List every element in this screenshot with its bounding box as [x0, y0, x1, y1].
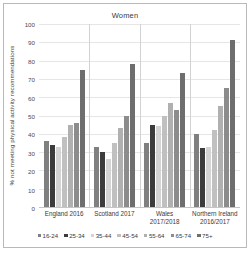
plot-area: 1009080706050403020100	[18, 24, 240, 208]
legend-label: 16-24	[43, 232, 59, 239]
bar[interactable]	[100, 152, 105, 207]
x-axis-label-line: 2017/2018	[140, 218, 190, 226]
bar[interactable]	[112, 143, 117, 207]
bar[interactable]	[68, 125, 73, 207]
y-tick-label: 60	[28, 94, 35, 101]
y-tick-label: 50	[28, 113, 35, 120]
legend-item[interactable]: 75+	[197, 232, 212, 239]
x-axis-label-line: England 2016	[39, 210, 89, 218]
bar-groups	[39, 24, 240, 207]
x-axis-labels: England 2016Scotland 2017Wales2017/2018N…	[39, 210, 240, 226]
y-axis-title: % not meeting physical activity recommen…	[6, 22, 18, 208]
legend-swatch	[117, 234, 121, 238]
x-axis-label: Scotland 2017	[89, 210, 139, 226]
legend-item[interactable]: 25-34	[64, 232, 85, 239]
bar[interactable]	[224, 88, 229, 207]
chart-card: Women % not meeting physical activity re…	[3, 3, 247, 248]
legend-label: 35-44	[96, 232, 112, 239]
bar[interactable]	[194, 134, 199, 207]
x-axis-label-line: 2016/2017	[190, 218, 240, 226]
chart-legend: 16-2425-3435-4445-5455-6465-7475+	[4, 232, 246, 239]
bar[interactable]	[162, 116, 167, 208]
legend-label: 55-64	[149, 232, 165, 239]
x-axis-label-line: Northern Ireland	[190, 210, 240, 218]
bar-group	[39, 24, 89, 207]
legend-item[interactable]: 35-44	[91, 232, 112, 239]
y-tick-label: 40	[28, 131, 35, 138]
y-tick-label: 10	[28, 186, 35, 193]
legend-item[interactable]: 16-24	[38, 232, 59, 239]
x-axis-label: Wales2017/2018	[140, 210, 190, 226]
y-tick-label: 90	[28, 39, 35, 46]
legend-swatch	[64, 234, 68, 238]
legend-swatch	[38, 234, 42, 238]
x-axis-label: England 2016	[39, 210, 89, 226]
bar[interactable]	[200, 148, 205, 207]
legend-label: 25-34	[69, 232, 85, 239]
bar[interactable]	[74, 123, 79, 207]
legend-label: 45-54	[122, 232, 138, 239]
bar[interactable]	[180, 73, 185, 207]
legend-item[interactable]: 55-64	[144, 232, 165, 239]
bar[interactable]	[150, 125, 155, 207]
bar[interactable]	[94, 147, 99, 207]
bar[interactable]	[118, 128, 123, 207]
bar-group	[140, 24, 190, 207]
legend-label: 65-74	[176, 232, 192, 239]
y-tick-label: 30	[28, 149, 35, 156]
y-axis-title-text: % not meeting physical activity recommen…	[9, 45, 16, 185]
bar[interactable]	[44, 141, 49, 207]
plot-canvas	[39, 24, 240, 208]
x-axis-label-line: Wales	[140, 210, 190, 218]
bar[interactable]	[106, 159, 111, 207]
bar[interactable]	[168, 103, 173, 207]
legend-swatch	[197, 234, 201, 238]
y-tick-label: 0	[32, 205, 35, 212]
bar[interactable]	[124, 116, 129, 208]
y-tick-label: 70	[28, 76, 35, 83]
y-tick-label: 20	[28, 168, 35, 175]
chart-title: Women	[4, 11, 246, 20]
x-axis-label: Northern Ireland2016/2017	[190, 210, 240, 226]
bar[interactable]	[218, 106, 223, 207]
bar[interactable]	[56, 147, 61, 207]
bar[interactable]	[144, 143, 149, 207]
y-axis-ticks: 1009080706050403020100	[18, 24, 37, 208]
x-axis-label-line: Scotland 2017	[89, 210, 139, 218]
bar[interactable]	[230, 40, 235, 207]
bar[interactable]	[50, 145, 55, 207]
legend-item[interactable]: 65-74	[171, 232, 192, 239]
legend-swatch	[91, 234, 95, 238]
bar[interactable]	[206, 147, 211, 207]
legend-item[interactable]: 45-54	[117, 232, 138, 239]
bar[interactable]	[156, 126, 161, 207]
bar[interactable]	[62, 137, 67, 207]
y-tick-label: 80	[28, 57, 35, 64]
bar[interactable]	[130, 64, 135, 207]
legend-swatch	[171, 234, 175, 238]
bar-group	[89, 24, 139, 207]
bar[interactable]	[212, 130, 217, 207]
legend-swatch	[144, 234, 148, 238]
legend-label: 75+	[202, 232, 212, 239]
bar-group	[190, 24, 240, 207]
bar[interactable]	[174, 110, 179, 207]
bar[interactable]	[80, 70, 85, 207]
y-tick-label: 100	[25, 21, 35, 28]
